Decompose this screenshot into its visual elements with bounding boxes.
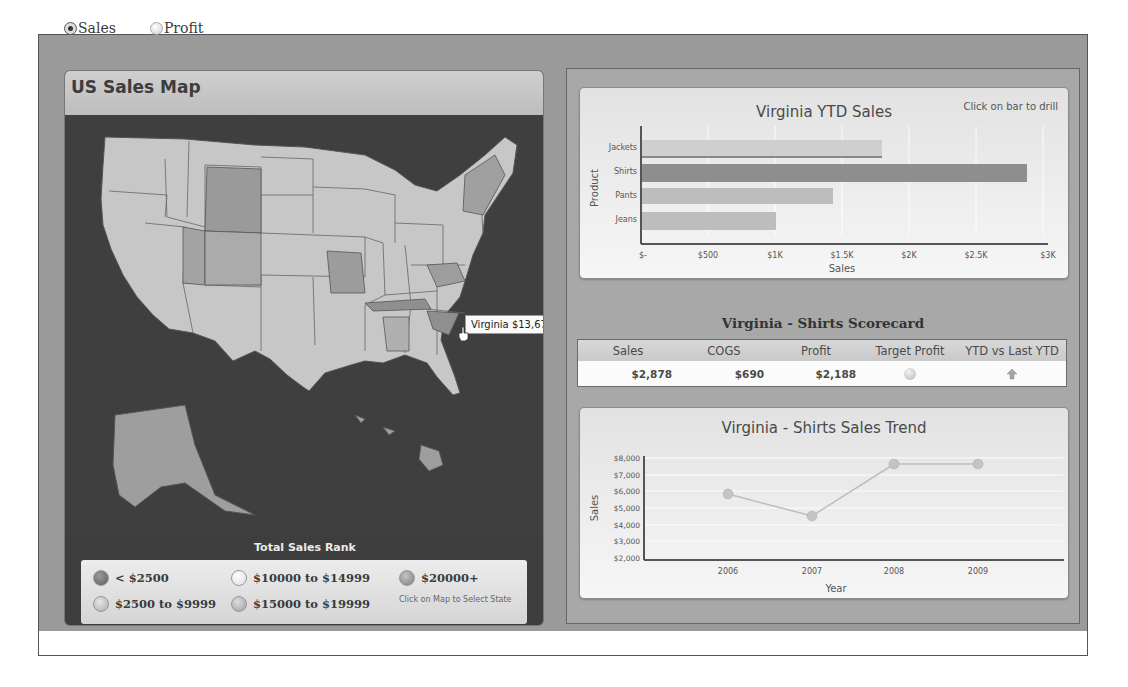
state-tooltip: Virginia $13,678	[465, 315, 544, 334]
col-sales: Sales	[578, 344, 678, 358]
sales-trend-line-chart: $8,000 $7,000 $6,000 $5,000 $4,000 $3,00…	[580, 408, 1070, 600]
svg-text:Product: Product	[589, 169, 600, 207]
trend-point-2009[interactable]	[973, 459, 983, 469]
neutral-indicator-icon	[904, 368, 916, 380]
svg-text:$4,000: $4,000	[614, 521, 640, 530]
scorecard-title: Virginia - Shirts Scorecard	[567, 315, 1079, 331]
bar-jeans[interactable]	[641, 212, 776, 230]
svg-text:Pants: Pants	[615, 191, 637, 200]
svg-text:$3K: $3K	[1040, 251, 1056, 260]
scorecard-row: $2,878 $690 $2,188	[578, 361, 1066, 386]
legend-item-2500-9999: $2500 to $9999	[93, 596, 216, 612]
scorecard-header-row: Sales COGS Profit Target Profit YTD vs L…	[578, 340, 1066, 361]
legend-label: $2500 to $9999	[115, 597, 216, 611]
svg-text:Year: Year	[824, 583, 847, 594]
svg-text:2008: 2008	[884, 567, 904, 576]
bar-jackets[interactable]	[641, 140, 882, 156]
svg-text:$500: $500	[698, 251, 718, 260]
trend-point-2007[interactable]	[807, 511, 817, 521]
legend-label: $20000+	[421, 571, 479, 585]
details-panel: Virginia YTD Sales Click on bar to drill	[566, 68, 1080, 624]
col-ytd-vs-last: YTD vs Last YTD	[958, 344, 1066, 358]
svg-text:$2,000: $2,000	[614, 554, 640, 563]
legend-swatch-icon	[231, 570, 247, 586]
col-cogs: COGS	[678, 344, 770, 358]
map-panel-header: US Sales Map	[65, 71, 543, 115]
svg-text:$3,000: $3,000	[614, 537, 640, 546]
col-profit: Profit	[770, 344, 862, 358]
radio-profit[interactable]: Profit	[150, 20, 204, 36]
radio-selected-icon	[64, 22, 77, 35]
up-arrow-icon	[1006, 368, 1018, 380]
svg-text:$1.5K: $1.5K	[830, 251, 854, 260]
map-legend: < $2500 $2500 to $9999 $10000 to $14999 …	[81, 560, 527, 624]
svg-text:Sales: Sales	[829, 263, 856, 274]
radio-sales-label: Sales	[78, 20, 116, 36]
radio-profit-label: Profit	[164, 20, 204, 36]
svg-text:$2K: $2K	[901, 251, 917, 260]
svg-text:2006: 2006	[718, 567, 738, 576]
legend-item-20000-plus: $20000+	[399, 570, 479, 586]
legend-swatch-icon	[93, 596, 109, 612]
svg-text:Jeans: Jeans	[615, 215, 637, 224]
measure-toggle: Sales Profit	[64, 20, 237, 36]
legend-item-lt-2500: < $2500	[93, 570, 169, 586]
legend-label: $15000 to $19999	[253, 597, 370, 611]
bar-shirts[interactable]	[641, 164, 1027, 182]
svg-text:$1K: $1K	[767, 251, 783, 260]
svg-text:$8,000: $8,000	[614, 454, 640, 463]
svg-text:$5,000: $5,000	[614, 504, 640, 513]
cell-sales: $2,878	[578, 368, 678, 380]
legend-item-10000-14999: $10000 to $14999	[231, 570, 370, 586]
sales-trend-chart-card: Virginia - Shirts Sales Trend	[579, 407, 1069, 599]
ytd-sales-chart-card: Virginia YTD Sales Click on bar to drill	[579, 87, 1069, 279]
legend-swatch-icon	[93, 570, 109, 586]
hand-cursor-icon	[459, 327, 469, 341]
svg-text:Jackets: Jackets	[608, 143, 637, 152]
trend-point-2008[interactable]	[889, 459, 899, 469]
ytd-bar-chart: Jackets Shirts Pants Jeans Product $- $5…	[580, 88, 1070, 280]
scorecard-table: Sales COGS Profit Target Profit YTD vs L…	[577, 339, 1067, 387]
us-sales-map-panel: US Sales Map	[64, 70, 544, 626]
svg-text:2009: 2009	[968, 567, 988, 576]
radio-sales[interactable]: Sales	[64, 20, 116, 36]
us-map[interactable]: Virginia $13,678	[65, 115, 544, 535]
svg-text:$7,000: $7,000	[614, 471, 640, 480]
legend-swatch-icon	[231, 596, 247, 612]
legend-swatch-icon	[399, 570, 415, 586]
trend-point-2006[interactable]	[723, 489, 733, 499]
svg-text:$2.5K: $2.5K	[964, 251, 988, 260]
cell-profit: $2,188	[770, 368, 862, 380]
bar-pants[interactable]	[641, 188, 833, 204]
svg-text:Shirts: Shirts	[614, 167, 637, 176]
legend-title: Total Sales Rank	[65, 541, 544, 554]
svg-text:$-: $-	[639, 251, 647, 260]
svg-text:Sales: Sales	[589, 495, 600, 522]
cell-ytd-vs-last	[958, 368, 1066, 380]
map-panel-title: US Sales Map	[71, 77, 543, 97]
cell-cogs: $690	[678, 368, 770, 380]
cell-target-profit	[862, 368, 958, 380]
legend-label: < $2500	[115, 571, 169, 585]
legend-note: Click on Map to Select State	[399, 595, 514, 605]
svg-text:$6,000: $6,000	[614, 487, 640, 496]
legend-item-15000-19999: $15000 to $19999	[231, 596, 370, 612]
radio-unselected-icon	[150, 22, 163, 35]
col-target-profit: Target Profit	[862, 344, 958, 358]
svg-text:2007: 2007	[802, 567, 822, 576]
legend-label: $10000 to $14999	[253, 571, 370, 585]
